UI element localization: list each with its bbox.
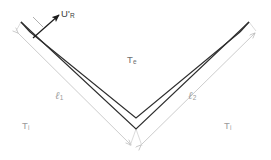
schematic-svg: [0, 0, 271, 160]
internal-temp-right-subscript: i: [230, 124, 232, 131]
duct-end-cap-left: [21, 22, 30, 32]
dimension-line-l2: [141, 33, 255, 145]
length-2-subscript: 2: [192, 94, 196, 101]
label-internal-temperature-left: Ti: [22, 116, 30, 132]
label-internal-temperature-right: Ti: [224, 116, 232, 132]
velocity-subscript: R: [70, 12, 75, 19]
internal-temp-left-base: T: [22, 120, 28, 131]
dimension-line-l1: [18, 33, 131, 145]
label-velocity-u-prime-r: U'R: [61, 4, 75, 20]
duct-outer-wall: [21, 22, 249, 129]
dimension-extension-right: [249, 22, 256, 31]
dimension-lines: [16, 22, 256, 146]
duct-end-cap-right: [240, 22, 249, 32]
label-length-2: ℓ2: [188, 86, 196, 102]
label-length-1: ℓ1: [55, 86, 63, 102]
dimension-extension-left: [16, 22, 21, 31]
dimension-extension-vertex-left: [130, 129, 136, 146]
internal-temp-right-base: T: [224, 120, 230, 131]
figure-canvas: U'R Te ℓ1 ℓ2 Ti Ti: [0, 0, 271, 160]
velocity-base: U: [61, 8, 68, 19]
external-temp-base: T: [127, 54, 133, 65]
duct-inner-wall: [30, 32, 240, 118]
dimension-extension-vertex-right: [136, 129, 142, 146]
flow-velocity-arrow-group: [33, 15, 59, 38]
duct-inlet-face: [33, 17, 43, 27]
length-1-subscript: 1: [59, 94, 63, 101]
external-temp-subscript: e: [133, 58, 137, 65]
label-external-temperature: Te: [127, 50, 137, 66]
flow-velocity-arrow: [33, 15, 59, 38]
internal-temp-left-subscript: i: [28, 124, 30, 131]
